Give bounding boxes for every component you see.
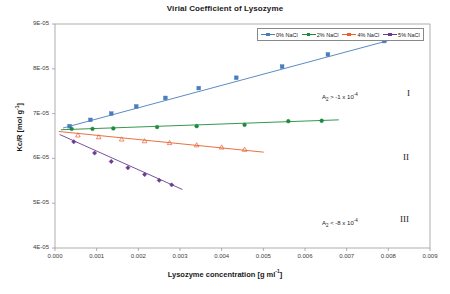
data-point (286, 119, 290, 123)
chart-container: Virial Coefficient of Lysozyme 4E-055E-0… (0, 0, 450, 294)
data-point (164, 96, 168, 100)
annotation-region-I: I (407, 88, 410, 98)
annotation-region-II: II (403, 152, 409, 162)
x-axis-title-text: Lysozyme concentration [g ml (168, 270, 276, 279)
chart-legend[interactable]: 0% NaCl2% NaCl4% NaCl5% NaCl (257, 28, 424, 41)
x-tick-label: 0.001 (80, 253, 114, 259)
y-tick-label: 5E-05 (15, 199, 49, 205)
legend-swatch-icon (383, 31, 397, 38)
legend-label: 5% NaCl (398, 32, 420, 38)
legend-item-3[interactable]: 5% NaCl (383, 31, 420, 38)
data-point (320, 119, 324, 123)
annotation-region-III: III (400, 214, 409, 224)
y-tick-label: 4E-05 (15, 244, 49, 250)
data-point (219, 145, 224, 149)
y-tick-label: 8E-05 (15, 65, 49, 71)
plot-canvas (0, 0, 450, 294)
data-point (126, 166, 130, 170)
legend-label: 4% NaCl (357, 32, 379, 38)
legend-item-2[interactable]: 4% NaCl (342, 31, 379, 38)
legend-swatch-icon (342, 31, 356, 38)
data-point (134, 105, 138, 109)
annotation-a2-lower: A2 < -8 x 10-4 (322, 218, 358, 228)
x-tick-label: 0.005 (246, 253, 280, 259)
x-tick-label: 0.004 (205, 253, 239, 259)
legend-label: 2% NaCl (317, 32, 339, 38)
data-point (109, 159, 113, 163)
legend-swatch-icon (302, 31, 316, 38)
data-point (169, 183, 173, 187)
x-tick-label: 0.000 (38, 253, 72, 259)
data-point (89, 118, 93, 122)
data-point (195, 124, 199, 128)
x-tick-label: 0.003 (163, 253, 197, 259)
y-axis-title-text: Kc/R [mol g (15, 110, 24, 152)
y-axis-title: Kc/R [mol g-1] (14, 72, 25, 182)
data-point (197, 86, 201, 90)
data-point (326, 53, 330, 57)
x-tick-label: 0.007 (330, 253, 364, 259)
data-point (234, 76, 238, 80)
axis-ticks (52, 24, 430, 251)
legend-label: 0% NaCl (276, 32, 298, 38)
data-point (91, 127, 95, 131)
legend-swatch-icon (261, 31, 275, 38)
x-tick-label: 0.009 (413, 253, 447, 259)
data-point (242, 147, 247, 151)
legend-item-0[interactable]: 0% NaCl (261, 31, 298, 38)
y-tick-label: 9E-05 (15, 20, 49, 26)
x-axis-title: Lysozyme concentration [g ml-1] (0, 268, 450, 279)
data-point (109, 112, 113, 116)
legend-item-1[interactable]: 2% NaCl (302, 31, 339, 38)
data-point (92, 151, 96, 155)
data-point (111, 126, 115, 130)
x-tick-label: 0.002 (121, 253, 155, 259)
x-axis-title-tail: ] (280, 270, 283, 279)
x-tick-label: 0.008 (371, 253, 405, 259)
data-point (280, 65, 284, 69)
data-point (155, 125, 159, 129)
y-axis-title-tail: ] (15, 103, 24, 106)
x-tick-label: 0.006 (288, 253, 322, 259)
data-point (243, 123, 247, 127)
data-point (70, 127, 74, 131)
y-axis-title-sup: -1 (14, 105, 20, 109)
data-point (194, 143, 199, 147)
axis-frame (55, 24, 430, 248)
data-series-layer (59, 34, 413, 189)
annotation-a2-upper: A2 > -1 x 10-4 (322, 92, 358, 102)
